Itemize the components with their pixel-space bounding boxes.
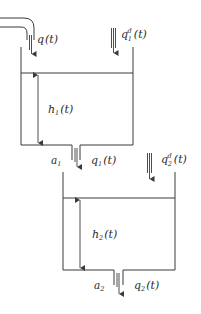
tank-2-outflow-arrow-icon xyxy=(117,273,119,294)
tank-2-disturbance-arrow-icon xyxy=(148,153,152,179)
tank-1-disturbance-arrow-icon xyxy=(112,28,116,53)
tank-1-outflow-arrow-icon xyxy=(75,148,77,167)
tank-2 xyxy=(63,172,175,285)
inflow-pipe xyxy=(0,18,34,40)
inflow-label: q(t) xyxy=(37,33,58,46)
tank-1-outflow-label: q1(t) xyxy=(91,154,116,168)
tank-2-level-label: h2(t) xyxy=(92,228,117,242)
two-tank-diagram: q(t) h1(t) qd1(t) a1 q1(t) h2(t) xyxy=(0,0,201,314)
inflow-arrow-icon xyxy=(30,35,32,54)
tank-1-disturbance-label: qd1(t) xyxy=(121,27,147,43)
tank-1-level-label: h1(t) xyxy=(48,103,73,117)
tank-1 xyxy=(21,47,133,160)
tank-2-outlet-area-label: a2 xyxy=(94,279,104,293)
tank-1-outlet-area-label: a1 xyxy=(51,154,61,168)
tank-2-disturbance-label: qd2(t) xyxy=(161,152,187,168)
tank-2-outflow-label: q2(t) xyxy=(134,279,159,293)
